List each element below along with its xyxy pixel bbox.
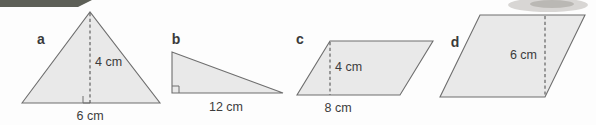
shape-group-b: b 12 cm [172,31,283,114]
shape-group-a: a 4 cm 6 cm [22,12,160,123]
scan-smudge-inner-icon [530,0,574,8]
triangle-b [172,52,283,93]
figure-canvas: a 4 cm 6 cm b 12 cm c 4 cm 8 cm d 6 cm [0,0,596,125]
shape-label-a: a [37,31,45,47]
parallelogram-c [297,41,433,95]
height-label-c: 4 cm [335,60,362,74]
top-banner-decoration [0,0,92,7]
triangle-a [22,12,160,103]
shape-label-c: c [296,31,304,47]
geometry-figure: a 4 cm 6 cm b 12 cm c 4 cm 8 cm d 6 cm [0,0,596,125]
base-label-b: 12 cm [209,100,243,114]
base-label-a: 6 cm [76,109,103,123]
shape-label-d: d [451,34,460,50]
shape-group-c: c 4 cm 8 cm [296,31,433,115]
shape-label-b: b [172,31,181,47]
height-label-a: 4 cm [95,55,122,69]
height-label-d: 6 cm [510,48,537,62]
base-label-c: 8 cm [324,101,351,115]
shape-group-d: d 6 cm [440,15,585,97]
